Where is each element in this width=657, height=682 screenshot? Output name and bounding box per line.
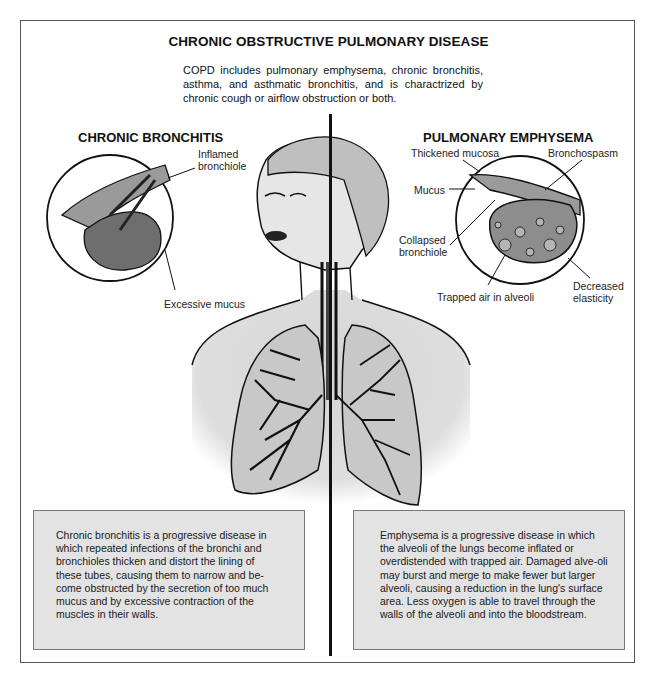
leader-thickened-mucosa [463, 160, 480, 172]
intro-text: COPD includes pulmonary emphysema, chron… [183, 63, 483, 105]
leader-decreased-elasticity [568, 258, 590, 278]
label-bronchospasm: Bronchospasm [548, 147, 618, 159]
bronchitis-magnified-icon [47, 155, 173, 281]
label-collapsed: Collapsed [399, 234, 446, 246]
heading-chronic-bronchitis: CHRONIC BRONCHITIS [78, 130, 223, 145]
label-collapsed-bronchiole: bronchiole [399, 246, 447, 258]
description-bronchitis: Chronic bronchitis is a progressive dise… [56, 529, 282, 621]
label-bronchiole: bronchiole [198, 160, 246, 172]
description-emphysema: Emphysema is a progressive disease in wh… [380, 529, 608, 621]
description-box-bronchitis: Chronic bronchitis is a progressive dise… [33, 510, 305, 650]
label-excessive-mucus: Excessive mucus [164, 298, 245, 310]
leader-excessive-mucus [165, 250, 175, 290]
label-elasticity: elasticity [573, 292, 613, 304]
leader-inflamed-bronchiole [168, 168, 195, 178]
label-decreased: Decreased [573, 280, 624, 292]
center-divider [329, 114, 332, 656]
label-mucus: Mucus [414, 184, 445, 196]
heading-pulmonary-emphysema: PULMONARY EMPHYSEMA [423, 130, 593, 145]
label-inflamed: Inflamed [198, 148, 238, 160]
label-thickened-mucosa: Thickened mucosa [411, 147, 499, 159]
page-title: CHRONIC OBSTRUCTIVE PULMONARY DISEASE [0, 34, 657, 49]
description-box-emphysema: Emphysema is a progressive disease in wh… [353, 510, 625, 650]
label-trapped-air: Trapped air in alveoli [437, 291, 534, 303]
